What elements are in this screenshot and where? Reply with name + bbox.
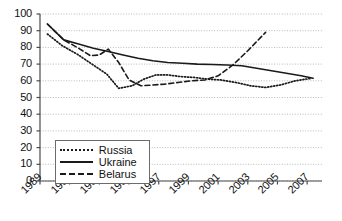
y-axis-tick-label: 100 bbox=[2, 8, 32, 19]
legend-label: Belarus bbox=[99, 168, 136, 180]
y-axis-tick-label: 20 bbox=[2, 142, 32, 153]
y-axis-tick-label: 80 bbox=[2, 41, 32, 52]
line-chart: 1009080706050403020100 19891991199319951… bbox=[0, 0, 342, 221]
y-axis-tick-label: 10 bbox=[2, 158, 32, 169]
legend-item-ukraine: Ukraine bbox=[60, 156, 144, 168]
legend-swatch-dashed-icon bbox=[60, 169, 93, 179]
y-axis-tick-label: 70 bbox=[2, 58, 32, 69]
series-line-russia bbox=[47, 34, 311, 88]
legend-swatch-dotted-icon bbox=[60, 145, 93, 155]
legend-label: Russia bbox=[99, 144, 133, 156]
y-axis-tick-label: 30 bbox=[2, 125, 32, 136]
legend-item-russia: Russia bbox=[60, 144, 144, 156]
chart-legend: Russia Ukraine Belarus bbox=[55, 140, 150, 184]
series-layer bbox=[47, 24, 313, 88]
y-axis-tick-label: 90 bbox=[2, 25, 32, 36]
legend-swatch-solid-icon bbox=[60, 157, 93, 167]
legend-item-belarus: Belarus bbox=[60, 168, 144, 180]
series-line-ukraine bbox=[47, 24, 313, 78]
y-axis-tick-label: 60 bbox=[2, 75, 32, 86]
series-line-belarus bbox=[47, 24, 265, 86]
y-axis-tick-label: 40 bbox=[2, 108, 32, 119]
y-axis-tick-label: 50 bbox=[2, 92, 32, 103]
legend-label: Ukraine bbox=[99, 156, 137, 168]
